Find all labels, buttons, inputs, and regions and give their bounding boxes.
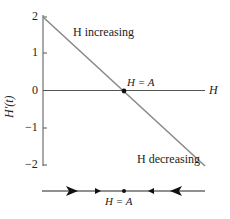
tick-label-neg1: −1: [25, 120, 38, 135]
x-axis-label: H: [209, 83, 218, 98]
tick-label-0: 0: [32, 83, 38, 98]
increasing-annotation: H increasing: [73, 25, 134, 40]
equilibrium-point: [122, 89, 127, 94]
decreasing-annotation: H decreasing: [137, 152, 200, 167]
arrow-right-small-icon: [95, 188, 101, 194]
equilibrium-label: H = A: [127, 76, 154, 88]
tick-label-1: 1: [32, 45, 38, 60]
phase-equilibrium-point: [122, 189, 126, 193]
y-axis-label: H'(t): [2, 95, 17, 118]
arrow-left-small-icon: [148, 188, 154, 194]
tick-label-neg2: −2: [25, 157, 38, 172]
tick-label-2: 2: [32, 9, 38, 24]
phase-equilibrium-label: H = A: [105, 195, 132, 207]
